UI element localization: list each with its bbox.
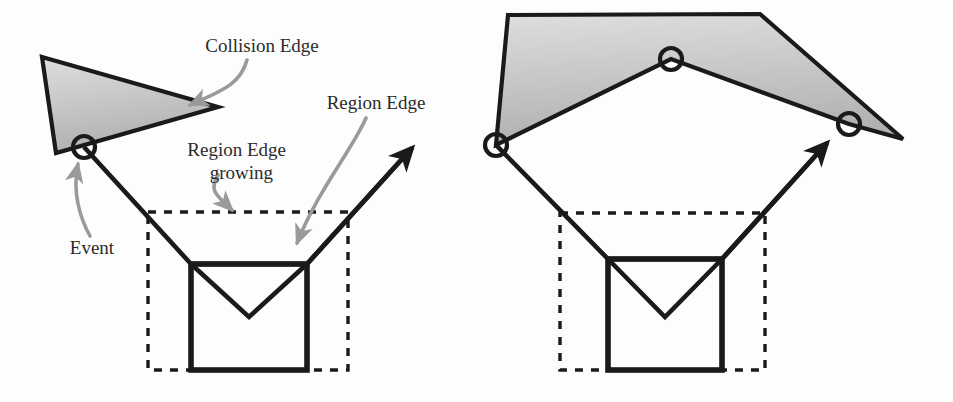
event-leader-line bbox=[76, 164, 90, 236]
wavefront-v bbox=[608, 259, 722, 317]
region-edge-leader-line bbox=[297, 118, 366, 243]
event-label: Event bbox=[70, 237, 115, 258]
panel-after-collision bbox=[485, 14, 903, 370]
event-marker-icon bbox=[73, 136, 95, 158]
region-edge-growth-arrow bbox=[722, 143, 827, 259]
collision-shape-polygon bbox=[496, 14, 903, 145]
wavefront-collision-diagram: Collision Edge Region Edge Region Edge g… bbox=[0, 0, 953, 402]
region-edge-label: Region Edge bbox=[327, 92, 426, 113]
region-edge-growing-label-line2: growing bbox=[210, 162, 274, 183]
figure-container: Collision Edge Region Edge Region Edge g… bbox=[0, 0, 953, 402]
wavefront-v bbox=[191, 264, 307, 317]
dashed-region-box bbox=[560, 213, 765, 370]
region-edge-growth-arrow bbox=[307, 148, 412, 264]
collision-edge-label: Collision Edge bbox=[205, 35, 318, 56]
collision-edge-leader-line bbox=[190, 60, 247, 105]
annotation-layer: Collision Edge Region Edge Region Edge g… bbox=[70, 35, 426, 258]
region-edge-growing-label: Region Edge growing bbox=[187, 139, 328, 183]
dashed-region-box bbox=[148, 212, 348, 370]
region-edge-growing-label-line1: Region Edge bbox=[187, 139, 286, 160]
